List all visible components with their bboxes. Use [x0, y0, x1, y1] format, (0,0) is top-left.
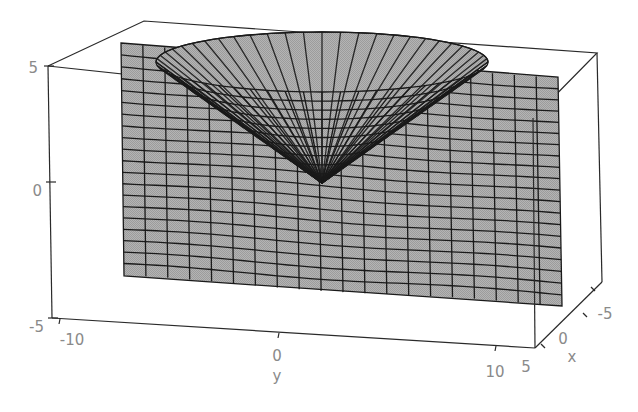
- z-axis: 5 0 -5: [28, 59, 58, 336]
- z-tick-0: 0: [32, 182, 42, 200]
- x-tick-5: 5: [521, 358, 531, 376]
- y-tick-0: 0: [272, 347, 282, 365]
- y-axis-label: y: [273, 367, 282, 385]
- y-tick-10: 10: [485, 363, 504, 381]
- x-axis-label: x: [568, 348, 577, 366]
- x-tick-neg5: -5: [598, 305, 613, 323]
- x-tick-0: 0: [558, 330, 568, 348]
- y-axis: -10 0 10 y: [59, 319, 505, 385]
- surface-plot: 5 0 -5 -10 0 10 y 5 0 -5 x: [0, 0, 638, 412]
- z-tick-5: 5: [28, 59, 38, 77]
- y-tick-neg10: -10: [60, 331, 85, 349]
- z-tick-neg5: -5: [29, 318, 44, 336]
